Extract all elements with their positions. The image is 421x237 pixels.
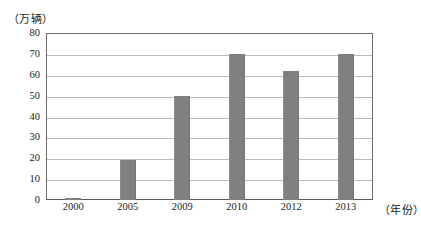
y-axis-tick-label: 10	[6, 174, 40, 185]
x-axis-tick-label: 2005	[103, 202, 153, 213]
gridline	[47, 76, 372, 77]
x-axis-tick-label: 2013	[321, 202, 371, 213]
y-axis-tick-label: 70	[6, 49, 40, 60]
plot-area	[46, 33, 373, 200]
y-axis-unit-label: （万辆）	[8, 10, 53, 26]
gridline	[47, 138, 372, 139]
y-axis-tick-label: 50	[6, 91, 40, 102]
y-axis-tick-label: 80	[6, 28, 40, 39]
gridline	[47, 180, 372, 181]
gridline	[47, 118, 372, 119]
x-axis-tick-label: 2009	[157, 202, 207, 213]
y-axis-tick-label: 0	[6, 195, 40, 206]
gridline	[47, 55, 372, 56]
gridline	[47, 159, 372, 160]
x-axis-tick-label: 2000	[48, 202, 98, 213]
y-axis-tick-label: 40	[6, 112, 40, 123]
gridline	[47, 97, 372, 98]
x-axis-tick-labels: 200020052009201020122013	[46, 202, 373, 220]
y-axis-tick-label: 30	[6, 132, 40, 143]
y-axis-tick-label: 20	[6, 153, 40, 164]
bar-chart-figure: （万辆） 01020304050607080 20002005200920102…	[0, 0, 421, 237]
x-axis-tick-label: 2012	[266, 202, 316, 213]
y-axis-tick-label: 60	[6, 70, 40, 81]
x-axis-unit-label: （年份）	[379, 201, 421, 217]
y-axis-tick-labels: 01020304050607080	[0, 33, 46, 200]
x-axis-tick-label: 2010	[212, 202, 262, 213]
